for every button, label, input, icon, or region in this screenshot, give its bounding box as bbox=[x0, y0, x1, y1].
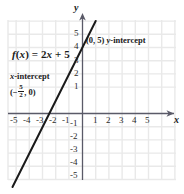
coord-sign: − bbox=[13, 87, 18, 97]
function-line bbox=[13, 21, 96, 187]
y-intercept-label: (0, 5) y-intercept bbox=[86, 36, 146, 45]
function-equation-label: f(x) = 2x + 5 bbox=[12, 49, 70, 60]
y-tick-label--4: -4 bbox=[70, 158, 78, 167]
x-tick-label--1: -1 bbox=[62, 116, 70, 125]
graph-figure: y x -5 -4 -3 -2 -1 1 2 3 4 5 5 4 3 2 1 -… bbox=[0, 0, 184, 194]
x-axis-label: x bbox=[174, 115, 179, 125]
x-intercept-label: x-intercept bbox=[10, 72, 50, 81]
y-tick-label--1: -1 bbox=[70, 119, 78, 128]
x-tick-label-1: 1 bbox=[93, 116, 98, 125]
coord-fraction: 52 bbox=[18, 84, 24, 100]
y-tick-label--3: -3 bbox=[70, 145, 78, 154]
y-intercept-point: (0, 5) bbox=[86, 35, 107, 45]
x-tick-label--5: -5 bbox=[10, 116, 18, 125]
y-tick-label--5: -5 bbox=[70, 171, 78, 180]
equation-constant: + 5 bbox=[52, 48, 70, 60]
x-intercept-text: -intercept bbox=[14, 71, 49, 81]
coord-comma-zero: , 0 bbox=[24, 87, 33, 97]
y-axis-label: y bbox=[74, 3, 78, 13]
y-tick-label-2: 2 bbox=[74, 69, 79, 78]
equation-equals: = 2 bbox=[29, 48, 47, 60]
y-tick-label-1: 1 bbox=[74, 82, 79, 91]
y-tick-label-4: 4 bbox=[74, 42, 79, 51]
x-tick-label--2: -2 bbox=[49, 116, 57, 125]
y-tick-label-3: 3 bbox=[74, 56, 79, 65]
y-tick-label--2: -2 bbox=[70, 132, 78, 141]
x-tick-label--3: -3 bbox=[36, 116, 44, 125]
x-tick-label-4: 4 bbox=[132, 116, 137, 125]
x-tick-label--4: -4 bbox=[23, 116, 31, 125]
coord-paren-close: ) bbox=[33, 87, 36, 97]
x-tick-label-3: 3 bbox=[119, 116, 124, 125]
y-tick-label-5: 5 bbox=[74, 29, 79, 38]
x-intercept-coordinate: (−52, 0) bbox=[10, 84, 36, 100]
y-intercept-text: -intercept bbox=[110, 35, 145, 45]
y-axis bbox=[79, 13, 86, 180]
x-tick-label-5: 5 bbox=[145, 116, 150, 125]
x-tick-label-2: 2 bbox=[106, 116, 111, 125]
fraction-denominator: 2 bbox=[18, 92, 24, 99]
